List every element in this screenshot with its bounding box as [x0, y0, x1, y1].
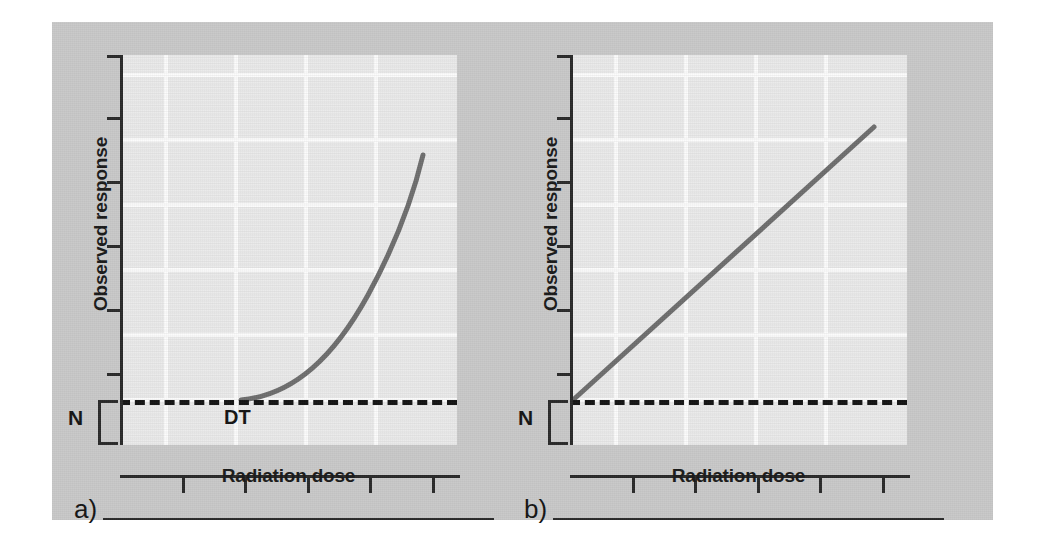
- caption-letter-b: b): [524, 496, 547, 524]
- y-tick-a-5: [107, 117, 121, 120]
- y-tick-b-4: [557, 181, 571, 184]
- y-axis-line-a: [120, 55, 123, 445]
- noise-label-a: N: [68, 407, 83, 428]
- y-tick-b-3: [557, 245, 571, 248]
- y-axis-title-a: Observed response: [90, 104, 112, 344]
- caption-a: a): [74, 484, 494, 524]
- noise-bracket-b: [548, 400, 568, 445]
- y-tick-a-4: [107, 181, 121, 184]
- figure-plate: Observed response N DT: [52, 22, 993, 520]
- caption-rule-a: [103, 518, 494, 520]
- noise-label-b: N: [518, 407, 533, 428]
- panel-b: Observed response N: [502, 22, 972, 520]
- caption-b: b): [524, 484, 944, 524]
- y-axis-title-b: Observed response: [540, 104, 562, 344]
- panel-a: Observed response N DT: [52, 22, 522, 520]
- noise-bracket-a: [98, 400, 118, 445]
- noise-level-dashed-line-a: [120, 400, 457, 405]
- dose-response-curve-a: [120, 55, 457, 445]
- plot-frame-a: N DT: [120, 55, 457, 445]
- y-tick-b-5: [557, 117, 571, 120]
- y-tick-b-1: [557, 373, 571, 376]
- y-tick-a-3: [107, 245, 121, 248]
- y-tick-b-6: [557, 55, 571, 58]
- y-tick-b-2: [557, 309, 571, 312]
- noise-level-dashed-line-b: [570, 400, 907, 405]
- y-tick-a-1: [107, 373, 121, 376]
- caption-letter-a: a): [74, 496, 97, 524]
- y-axis-line-b: [570, 55, 573, 445]
- y-tick-a-2: [107, 309, 121, 312]
- caption-rule-b: [553, 518, 944, 520]
- plot-frame-b: N: [570, 55, 907, 445]
- dose-response-curve-b: [570, 55, 907, 445]
- y-tick-a-6: [107, 55, 121, 58]
- dose-threshold-label: DT: [224, 407, 251, 427]
